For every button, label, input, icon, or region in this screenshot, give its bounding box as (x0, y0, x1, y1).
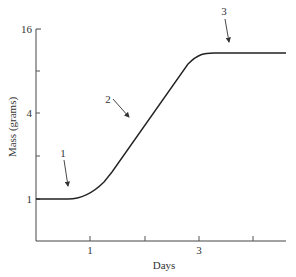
axes (36, 29, 286, 241)
annotation-2-arrow-icon (113, 99, 129, 117)
y-axis-label: Mass (grams) (6, 97, 19, 158)
annotation-1-arrow-icon (64, 160, 68, 186)
annotation-1-label: 1 (60, 147, 66, 159)
y-tick-label-16: 16 (21, 23, 33, 35)
annotation-2: 2 (105, 93, 129, 117)
growth-curve (36, 53, 286, 199)
annotation-3-arrow-icon (225, 19, 229, 42)
growth-chart: 16 4 1 1 3 Days Mass (grams) 1 2 3 (0, 0, 296, 277)
annotation-2-label: 2 (105, 93, 111, 105)
annotation-1: 1 (60, 147, 68, 186)
y-tick-label-4: 4 (27, 107, 33, 119)
annotation-3-label: 3 (221, 5, 227, 17)
x-tick-label-1: 1 (87, 244, 93, 256)
x-tick-label-3: 3 (196, 244, 202, 256)
x-axis-label: Days (153, 259, 176, 271)
y-tick-label-1: 1 (27, 193, 33, 205)
annotation-3: 3 (221, 5, 229, 42)
